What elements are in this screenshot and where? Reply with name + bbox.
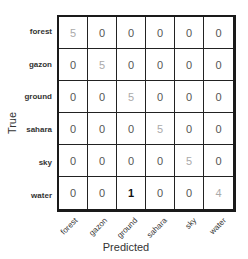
row-label-water: water — [31, 191, 52, 200]
matrix-grid: 5 0 0 0 0 0 0 5 0 0 0 0 0 0 5 0 0 0 0 0 … — [57, 15, 236, 212]
cell-sky-sahara: 0 — [146, 145, 175, 177]
row-label-gazon: gazon — [29, 60, 52, 69]
cell-water-gazon: 0 — [88, 177, 117, 209]
cell-sky-sky: 5 — [175, 145, 204, 177]
cell-forest-ground: 0 — [117, 17, 146, 49]
cell-water-water: 4 — [204, 177, 233, 209]
cell-forest-water: 0 — [204, 17, 233, 49]
cell-water-sahara: 0 — [146, 177, 175, 209]
cell-forest-gazon: 0 — [88, 17, 117, 49]
cell-forest-forest: 5 — [59, 17, 88, 49]
cell-ground-sky: 0 — [175, 81, 204, 113]
row-label-forest: forest — [30, 27, 52, 36]
cell-water-sky: 0 — [175, 177, 204, 209]
col-label-water: water — [208, 216, 228, 236]
row-label-sky: sky — [39, 158, 52, 167]
cell-sky-forest: 0 — [59, 145, 88, 177]
cell-gazon-forest: 0 — [59, 49, 88, 81]
cell-gazon-water: 0 — [204, 49, 233, 81]
cell-sahara-forest: 0 — [59, 113, 88, 145]
col-label-ground: ground — [115, 216, 139, 240]
cell-sahara-sahara: 5 — [146, 113, 175, 145]
cell-gazon-sky: 0 — [175, 49, 204, 81]
x-axis-title: Predicted — [103, 241, 149, 253]
cell-water-ground: 1 — [117, 177, 146, 209]
cell-ground-water: 0 — [204, 81, 233, 113]
cell-ground-forest: 0 — [59, 81, 88, 113]
cell-sahara-water: 0 — [204, 113, 233, 145]
cell-gazon-ground: 0 — [117, 49, 146, 81]
cell-ground-ground: 5 — [117, 81, 146, 113]
cell-sahara-gazon: 0 — [88, 113, 117, 145]
row-label-ground: ground — [24, 92, 52, 101]
cell-sky-ground: 0 — [117, 145, 146, 177]
cell-sahara-ground: 0 — [117, 113, 146, 145]
col-label-sky: sky — [184, 216, 199, 231]
cell-forest-sky: 0 — [175, 17, 204, 49]
col-label-sahara: sahara — [145, 216, 169, 240]
col-label-gazon: gazon — [88, 216, 110, 238]
cell-ground-gazon: 0 — [88, 81, 117, 113]
cell-sky-gazon: 0 — [88, 145, 117, 177]
cell-water-forest: 0 — [59, 177, 88, 209]
cell-ground-sahara: 0 — [146, 81, 175, 113]
row-label-sahara: sahara — [26, 125, 52, 134]
cell-sky-water: 0 — [204, 145, 233, 177]
col-label-forest: forest — [59, 216, 80, 237]
cell-sahara-sky: 0 — [175, 113, 204, 145]
y-axis-title: True — [6, 112, 18, 134]
cell-gazon-gazon: 5 — [88, 49, 117, 81]
cell-forest-sahara: 0 — [146, 17, 175, 49]
cell-gazon-sahara: 0 — [146, 49, 175, 81]
